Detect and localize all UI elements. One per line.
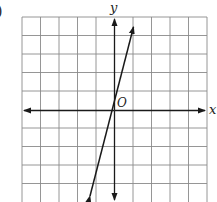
grid-plot [0,0,217,202]
axes [24,19,205,200]
coordinate-graph: ) [0,0,217,202]
origin-label: O [117,97,127,109]
x-axis-label: x [209,103,216,116]
y-axis-label: y [110,1,117,14]
graphed-line [90,27,134,196]
